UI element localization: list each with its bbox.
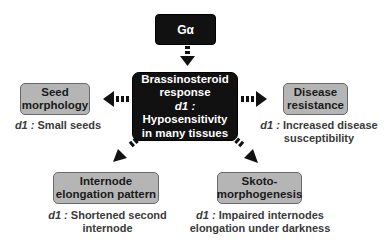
seed-morphology-node: Seed morphology: [20, 83, 90, 115]
disease-caption-line1: Increased disease: [283, 119, 378, 131]
seed-caption: d1 : Small seeds: [8, 119, 108, 132]
disease-resistance-node: Disease resistance: [283, 83, 348, 115]
disease-caption: d1 : Increased disease susceptibility: [255, 119, 383, 145]
brassinosteroid-response-node: Brassinosteroid response d1 : Hyposensit…: [132, 72, 238, 141]
seed-node-line2: morphology: [22, 99, 88, 112]
skoto-mutant: d1 :: [196, 209, 216, 221]
br-phenotype-line1: Hyposensitivity: [143, 113, 228, 125]
galpha-label: Gα: [177, 23, 194, 37]
disease-caption-line2: susceptibility: [255, 132, 383, 145]
seed-mutant: d1 :: [15, 119, 35, 131]
skoto-node-line2: morphogenesis: [217, 188, 303, 201]
br-title-line1: Brassinosteroid: [141, 73, 229, 87]
skoto-caption: d1 : Impaired internodes elongation unde…: [185, 209, 335, 235]
disease-node-line2: resistance: [287, 99, 344, 112]
disease-mutant: d1 :: [260, 119, 280, 131]
arrow-br-to-disease: [241, 91, 267, 107]
arrow-galpha-to-br: [180, 46, 195, 66]
internode-mutant: d1 :: [48, 209, 68, 221]
internode-caption-line1: Shortened second: [71, 209, 167, 221]
arrow-br-to-seed: [103, 91, 129, 107]
disease-node-line1: Disease: [294, 86, 337, 99]
internode-node-line2: elongation pattern: [56, 188, 156, 201]
internode-caption-line2: internode: [40, 222, 175, 235]
br-phenotype-line2: in many tissues: [142, 127, 228, 141]
internode-caption: d1 : Shortened second internode: [40, 209, 175, 235]
skoto-caption-line1: Impaired internodes: [219, 209, 324, 221]
seed-node-line1: Seed: [41, 86, 69, 99]
skotomorphogenesis-node: Skoto- morphogenesis: [217, 172, 302, 204]
internode-node-line1: Internode: [80, 175, 132, 188]
galpha-node: Gα: [155, 14, 216, 45]
internode-elongation-node: Internode elongation pattern: [53, 172, 159, 204]
skoto-node-line1: Skoto-: [242, 175, 278, 188]
seed-caption-text: Small seeds: [38, 119, 102, 131]
br-title-line2: response: [159, 86, 210, 100]
br-mutant: d1 :: [175, 100, 195, 112]
skoto-caption-line2: elongation under darkness: [185, 222, 335, 235]
